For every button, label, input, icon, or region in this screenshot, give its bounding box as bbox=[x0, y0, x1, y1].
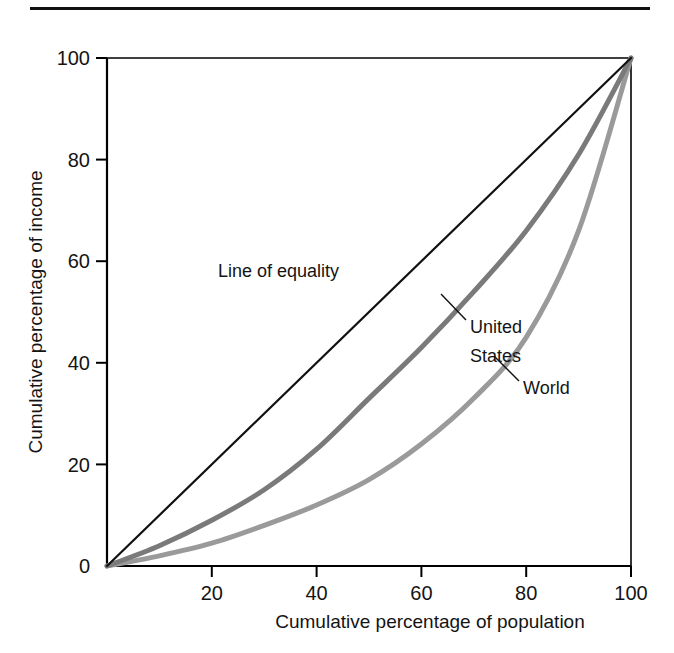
annotation-united-states-label-line1: United bbox=[470, 317, 522, 337]
chart-svg: 100 80 60 40 20 0 20 40 60 80 100 Cumula… bbox=[0, 0, 674, 653]
x-tick-label-60: 60 bbox=[410, 582, 432, 604]
annotation-world-label: World bbox=[523, 378, 570, 398]
y-tick-label-60: 60 bbox=[68, 250, 90, 272]
lorenz-curve-figure: 100 80 60 40 20 0 20 40 60 80 100 Cumula… bbox=[0, 0, 674, 653]
page-background bbox=[0, 0, 674, 653]
y-tick-label-0: 0 bbox=[79, 555, 90, 577]
x-tick-label-20: 20 bbox=[201, 582, 223, 604]
y-tick-label-80: 80 bbox=[68, 149, 90, 171]
y-axis-title: Cumulative percentage of income bbox=[25, 170, 46, 453]
y-tick-label-20: 20 bbox=[68, 454, 90, 476]
y-tick-label-100: 100 bbox=[57, 47, 90, 69]
x-tick-label-40: 40 bbox=[305, 582, 327, 604]
annotation-line-of-equality-label: Line of equality bbox=[218, 261, 339, 281]
annotation-line-of-equality: Line of equality bbox=[218, 261, 339, 281]
y-tick-label-40: 40 bbox=[68, 352, 90, 374]
x-tick-label-80: 80 bbox=[515, 582, 537, 604]
annotation-united-states-label-line2: States bbox=[470, 346, 521, 366]
x-axis-title: Cumulative percentage of population bbox=[275, 611, 584, 632]
x-tick-label-100: 100 bbox=[614, 582, 647, 604]
